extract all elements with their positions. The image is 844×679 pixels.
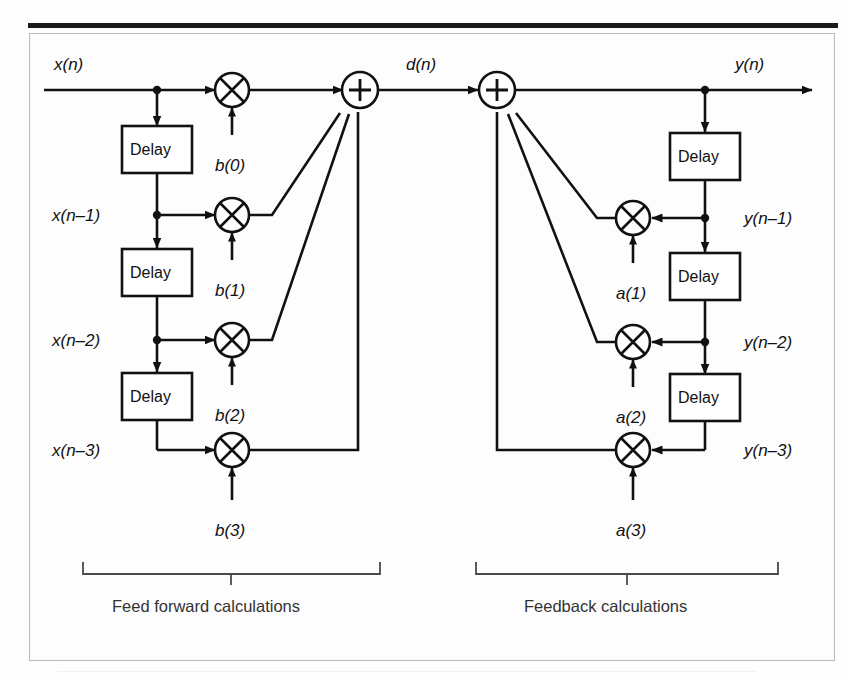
delay-label-y1: Delay	[678, 149, 719, 165]
label-b2: b(2)	[215, 407, 245, 424]
multiplier-a3	[616, 433, 650, 467]
label-y-n-2: y(n–2)	[744, 334, 792, 351]
multiplier-b3	[215, 433, 249, 467]
feedback-wires	[497, 90, 812, 500]
label-b3: b(3)	[215, 522, 245, 539]
label-a3: a(3)	[616, 522, 646, 539]
label-dn: d(n)	[406, 56, 436, 73]
multiplier-b1	[215, 198, 249, 232]
delay-label-x2: Delay	[130, 265, 171, 281]
bracket-feedback	[476, 562, 778, 585]
diagram-canvas	[0, 0, 844, 679]
bracket-label-feedback: Feedback calculations	[524, 598, 687, 615]
label-a1: a(1)	[616, 285, 646, 302]
multiplier-b0	[215, 73, 249, 107]
label-y-n-3: y(n–3)	[744, 442, 792, 459]
label-a2: a(2)	[616, 409, 646, 426]
caption-rule	[57, 671, 757, 672]
summing-junction-y	[479, 72, 515, 108]
label-b0: b(0)	[215, 157, 245, 174]
summing-junction-d	[342, 72, 378, 108]
label-output-yn: y(n)	[735, 56, 764, 73]
figure-page: x(n) d(n) y(n) x(n–1) x(n–2) x(n–3) b(0)…	[0, 0, 844, 679]
delay-label-x3: Delay	[130, 389, 171, 405]
delay-label-x1: Delay	[130, 142, 171, 158]
bracket-feedforward	[83, 562, 380, 585]
label-x-n-2: x(n–2)	[52, 332, 100, 349]
delay-label-y3: Delay	[678, 390, 719, 406]
multiplier-a2	[616, 325, 650, 359]
multiplier-b2	[215, 323, 249, 357]
delay-label-y2: Delay	[678, 269, 719, 285]
feedforward-wires	[44, 90, 358, 500]
label-b1: b(1)	[215, 282, 245, 299]
label-y-n-1: y(n–1)	[744, 210, 792, 227]
bracket-label-feedforward: Feed forward calculations	[112, 598, 300, 615]
label-input-xn: x(n)	[54, 56, 83, 73]
label-x-n-1: x(n–1)	[52, 207, 100, 224]
label-x-n-3: x(n–3)	[52, 442, 100, 459]
multiplier-a1	[616, 201, 650, 235]
